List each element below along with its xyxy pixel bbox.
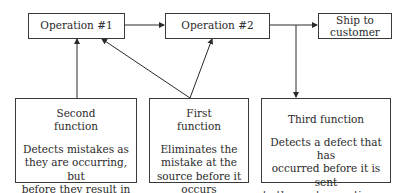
first-function-description: Eliminates the mistake at the source bef… [150,143,248,193]
arrow-first-to-op1 [102,39,190,98]
second-function-title-1: Second [16,107,136,120]
first-function-box: First function Eliminates the mistake at… [149,98,249,183]
first-function-title-1: First [150,107,248,120]
third-function-box: Third function Detects a defect that has… [261,98,391,183]
ship-to-customer-box: Ship to customer [318,13,392,39]
arrow-first-to-op2 [190,39,212,98]
operation-2-label: Operation #2 [181,19,253,32]
ship-label-line2: customer [330,26,380,38]
ship-label-line1: Ship to [336,14,374,26]
second-function-description: Detects mistakes as they are occurring, … [16,143,136,193]
second-function-title-2: function [16,120,136,133]
operation-1-label: Operation #1 [40,19,112,32]
second-function-box: Second function Detects mistakes as they… [15,98,137,183]
operation-2-box: Operation #2 [165,13,270,39]
third-function-description: Detects a defect that has occurred befor… [262,136,390,193]
third-function-title: Third function [262,113,390,126]
first-function-title-2: function [150,120,248,133]
operation-1-box: Operation #1 [28,13,125,39]
